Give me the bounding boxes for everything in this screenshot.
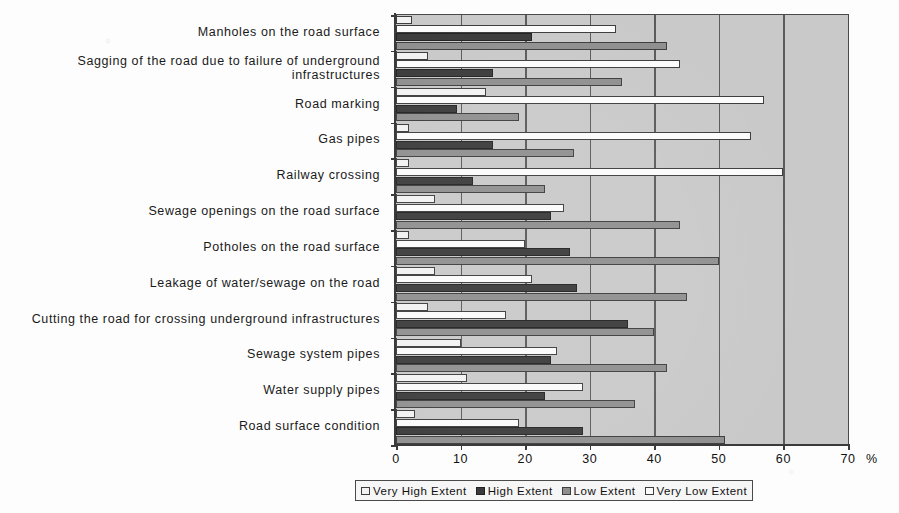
bar bbox=[396, 149, 574, 157]
category-label: Potholes on the road surface bbox=[0, 240, 380, 254]
x-tick-20 bbox=[525, 444, 527, 450]
x-axis-unit-label: % bbox=[866, 452, 878, 466]
bar bbox=[396, 320, 628, 328]
bar bbox=[396, 25, 616, 33]
bar bbox=[396, 132, 751, 140]
bar bbox=[396, 105, 457, 113]
legend-label: Low Extent bbox=[574, 485, 636, 497]
x-tick-70 bbox=[848, 444, 850, 450]
category-label: Sewage openings on the road surface bbox=[0, 204, 380, 218]
bar bbox=[396, 177, 473, 185]
category-label: Leakage of water/sewage on the road bbox=[0, 276, 380, 290]
bar bbox=[396, 78, 622, 86]
bar bbox=[396, 212, 551, 220]
legend-swatch-icon bbox=[645, 487, 654, 495]
bar bbox=[396, 328, 654, 336]
bar bbox=[396, 195, 435, 203]
bar bbox=[396, 400, 635, 408]
legend-swatch-icon bbox=[476, 487, 485, 495]
legend-swatch-icon bbox=[361, 487, 370, 495]
category-label: Sewage system pipes bbox=[0, 347, 380, 361]
bar bbox=[396, 311, 506, 319]
x-tick-label-10: 10 bbox=[453, 452, 468, 466]
bar bbox=[396, 159, 409, 167]
bar bbox=[396, 42, 667, 50]
legend-item[interactable]: Low Extent bbox=[562, 485, 636, 497]
legend-label: Very High Extent bbox=[373, 485, 467, 497]
bar bbox=[396, 96, 764, 104]
bar bbox=[396, 339, 461, 347]
x-tick-60 bbox=[783, 444, 785, 450]
x-tick-label-30: 30 bbox=[582, 452, 597, 466]
bar bbox=[396, 257, 719, 265]
x-axis-line bbox=[394, 444, 850, 446]
legend-item[interactable]: High Extent bbox=[476, 485, 553, 497]
category-label: Sagging of the road due to failure of un… bbox=[0, 54, 380, 82]
bar bbox=[396, 383, 583, 391]
bar bbox=[396, 267, 435, 275]
bar bbox=[396, 436, 725, 444]
bar bbox=[396, 356, 551, 364]
category-axis-labels: Manholes on the road surfaceSagging of t… bbox=[0, 14, 388, 444]
category-label: Manholes on the road surface bbox=[0, 25, 380, 39]
x-tick-label-20: 20 bbox=[518, 452, 533, 466]
bar bbox=[396, 113, 519, 121]
gridline-50 bbox=[719, 15, 721, 445]
bar bbox=[396, 284, 577, 292]
x-tick-50 bbox=[719, 444, 721, 450]
category-label: Gas pipes bbox=[0, 132, 380, 146]
bar bbox=[396, 231, 409, 239]
bar bbox=[396, 240, 525, 248]
bar bbox=[396, 168, 783, 176]
bar bbox=[396, 33, 532, 41]
bar bbox=[396, 185, 545, 193]
bar bbox=[396, 204, 564, 212]
category-label: Railway crossing bbox=[0, 168, 380, 182]
bar bbox=[396, 419, 519, 427]
x-tick-10 bbox=[461, 444, 463, 450]
legend-item[interactable]: Very Low Extent bbox=[645, 485, 748, 497]
bar bbox=[396, 88, 486, 96]
legend-item[interactable]: Very High Extent bbox=[361, 485, 467, 497]
bar bbox=[396, 275, 532, 283]
legend-swatch-icon bbox=[562, 487, 571, 495]
x-tick-40 bbox=[654, 444, 656, 450]
bar bbox=[396, 69, 493, 77]
plot-area bbox=[396, 14, 849, 445]
x-tick-label-40: 40 bbox=[647, 452, 662, 466]
x-tick-label-0: 0 bbox=[392, 452, 400, 466]
bar bbox=[396, 141, 493, 149]
bar bbox=[396, 16, 412, 24]
bar bbox=[396, 60, 680, 68]
bar bbox=[396, 124, 409, 132]
chart-legend: Very High ExtentHigh ExtentLow ExtentVer… bbox=[355, 480, 753, 501]
bar bbox=[396, 410, 415, 418]
bar bbox=[396, 364, 667, 372]
bar bbox=[396, 303, 428, 311]
category-label: Cutting the road for crossing undergroun… bbox=[0, 312, 380, 326]
bar bbox=[396, 392, 545, 400]
bar bbox=[396, 374, 467, 382]
category-label: Road marking bbox=[0, 97, 380, 111]
gridline-40 bbox=[654, 15, 656, 445]
bar bbox=[396, 427, 583, 435]
y-axis-line bbox=[394, 13, 396, 445]
x-tick-30 bbox=[590, 444, 592, 450]
gridline-60 bbox=[783, 15, 785, 445]
x-tick-label-60: 60 bbox=[776, 452, 791, 466]
category-label: Road surface condition bbox=[0, 419, 380, 433]
bar bbox=[396, 293, 687, 301]
category-label: Water supply pipes bbox=[0, 383, 380, 397]
x-tick-0 bbox=[396, 444, 398, 450]
bar bbox=[396, 52, 428, 60]
chart-page: Manholes on the road surfaceSagging of t… bbox=[0, 0, 899, 513]
x-tick-label-70: 70 bbox=[840, 452, 855, 466]
bar bbox=[396, 221, 680, 229]
bar bbox=[396, 347, 557, 355]
legend-label: High Extent bbox=[488, 485, 553, 497]
x-tick-label-50: 50 bbox=[711, 452, 726, 466]
bar bbox=[396, 248, 570, 256]
legend-label: Very Low Extent bbox=[657, 485, 748, 497]
